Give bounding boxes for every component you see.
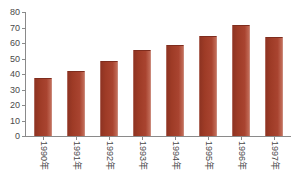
x-axis-label-slot: 1991年	[59, 141, 92, 179]
y-axis-tick-label: 60	[0, 39, 20, 48]
x-axis-label-slot: 1997年	[258, 141, 291, 179]
x-axis-tick-label: 1992年	[104, 141, 113, 170]
bar	[67, 71, 84, 136]
x-axis-tick-mark	[142, 137, 143, 140]
y-axis-tick-label: 20	[0, 101, 20, 110]
x-axis-tick-label: 1994年	[171, 141, 180, 170]
x-axis-tick-mark	[76, 137, 77, 140]
bar-slot	[159, 12, 192, 136]
y-axis-tick-label: 40	[0, 70, 20, 79]
x-axis-tick-label: 1990年	[38, 141, 47, 170]
bar-slot	[59, 12, 92, 136]
x-axis-tick-mark	[175, 137, 176, 140]
y-axis-tick-label: 80	[0, 8, 20, 17]
bar	[133, 50, 150, 136]
bar-slot	[258, 12, 291, 136]
x-axis-tick-mark	[274, 137, 275, 140]
x-axis-tick-labels: 1990年1991年1992年1993年1994年1995年1996年1997年	[26, 141, 291, 179]
bar	[167, 45, 184, 136]
clipped-text-remnant	[8, 0, 128, 2]
x-axis-label-slot: 1993年	[125, 141, 158, 179]
y-axis-tick-label: 50	[0, 54, 20, 63]
x-axis-tick-label: 1993年	[137, 141, 146, 170]
bar	[266, 37, 283, 136]
x-axis-label-slot: 1990年	[26, 141, 59, 179]
y-axis-tick-label: 30	[0, 85, 20, 94]
x-axis-tick-label: 1995年	[204, 141, 213, 170]
x-axis-tick-mark	[241, 137, 242, 140]
x-axis-label-slot: 1996年	[225, 141, 258, 179]
bar	[100, 61, 117, 136]
bar	[200, 36, 217, 136]
bar-chart: 80706050403020100 1990年1991年1992年1993年19…	[0, 0, 298, 179]
x-axis-tick-mark	[109, 137, 110, 140]
bar-slot	[92, 12, 125, 136]
y-axis-tick-labels: 80706050403020100	[0, 12, 20, 136]
x-axis-label-slot: 1992年	[92, 141, 125, 179]
bar-slot	[225, 12, 258, 136]
x-axis-tick-mark	[43, 137, 44, 140]
bar	[233, 25, 250, 136]
x-axis-tick-label: 1991年	[71, 141, 80, 170]
bar-slot	[192, 12, 225, 136]
x-axis-label-slot: 1994年	[159, 141, 192, 179]
y-axis-tick-label: 70	[0, 23, 20, 32]
x-axis-tick-mark	[208, 137, 209, 140]
y-axis-tick-label: 0	[0, 132, 20, 141]
y-axis-tick-label: 10	[0, 116, 20, 125]
bar-slot	[26, 12, 59, 136]
x-axis-tick-label: 1996年	[237, 141, 246, 170]
x-axis-label-slot: 1995年	[192, 141, 225, 179]
bar-slot	[125, 12, 158, 136]
bar	[34, 78, 51, 136]
plot-area	[26, 12, 291, 136]
x-axis-tick-label: 1997年	[270, 141, 279, 170]
